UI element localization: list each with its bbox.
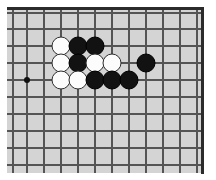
board-grid — [7, 7, 203, 173]
grid-line-horizontal-8 — [7, 147, 203, 149]
grid-line-horizontal-0 — [7, 12, 203, 14]
grid-line-horizontal-1 — [7, 28, 203, 30]
grid-line-horizontal-6 — [7, 113, 203, 115]
go-board-diagram — [0, 0, 216, 180]
stone-black-b7 — [120, 71, 139, 90]
grid-line-horizontal-9 — [7, 164, 203, 166]
grid-line-horizontal-7 — [7, 130, 203, 132]
grid-line-horizontal-5 — [7, 96, 203, 98]
grid-line-horizontal-2 — [7, 45, 203, 47]
board-edge-right — [201, 7, 204, 174]
stone-black-b4 — [137, 54, 156, 73]
hoshi-upper-left — [24, 77, 30, 83]
board-edge-top — [7, 7, 204, 10]
